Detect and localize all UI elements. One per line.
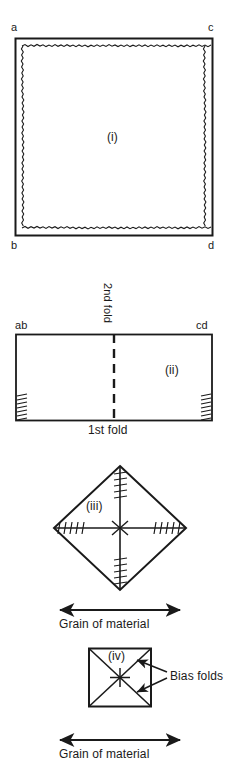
figure-ii-corner-label-ab: ab xyxy=(15,320,27,331)
figure-iii-group xyxy=(54,466,186,610)
figure-ii-hatching-left xyxy=(17,394,27,420)
figure-ii-hatching-right xyxy=(201,394,211,420)
figure-i-frayed-edge-right xyxy=(203,46,206,226)
figure-i-corner-label-d: d xyxy=(208,240,214,251)
figure-i-corner-label-c: c xyxy=(208,22,214,33)
figure-ii-second-fold-label: 2nd fold xyxy=(102,283,113,323)
figure-ii-corner-label-cd: cd xyxy=(196,320,208,331)
figure-i-corner-label-b: b xyxy=(11,240,17,251)
figure-iii-caption: (iii) xyxy=(86,500,103,512)
figure-i-caption: (i) xyxy=(107,131,118,143)
figure-i-frayed-edge-left xyxy=(21,46,24,226)
figure-ii-first-fold-label: 1st fold xyxy=(88,424,128,436)
figure-ii-caption: (ii) xyxy=(165,364,179,376)
figure-ii-rectangle xyxy=(16,335,212,421)
figure-iv-grain-label: Grain of material xyxy=(59,748,149,760)
figure-i-corner-label-a: a xyxy=(11,22,17,33)
diagram-canvas: a c b d (i) 2nd fold ab cd (ii) 1st fold… xyxy=(0,0,240,772)
figure-iv-caption: (iv) xyxy=(108,650,125,662)
figure-i-frayed-edge-top xyxy=(22,45,211,47)
figure-ii-group xyxy=(16,334,212,421)
figure-iv-bias-folds-label: Bias folds xyxy=(170,670,223,682)
figure-i-frayed-edge-bottom xyxy=(22,226,211,229)
figure-iii-grain-label: Grain of material xyxy=(59,618,149,630)
